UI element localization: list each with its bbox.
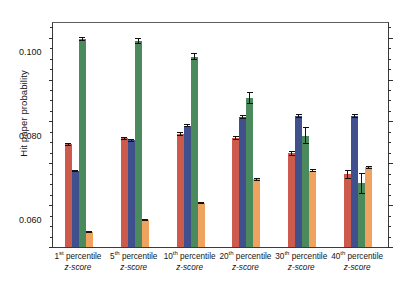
error-bar-series-2-group-1	[72, 170, 79, 173]
bar-series-2-group-6	[351, 116, 358, 247]
y-tick-minor	[388, 142, 391, 143]
x-category-line2: z-score	[162, 263, 218, 274]
error-bar-series-4-group-6	[365, 166, 372, 169]
x-category-line2: z-score	[106, 263, 162, 274]
error-bar-series-3-group-2	[135, 38, 142, 44]
bar-series-3-group-1	[79, 39, 86, 247]
y-tick-minor	[388, 132, 391, 133]
y-tick-label: 0.100	[19, 47, 42, 57]
bar-group	[232, 23, 260, 247]
plot-area: 0.0000.0200.0400.0600.0800.100	[52, 22, 389, 248]
y-tick-minor	[388, 100, 391, 101]
error-bar-series-2-group-5	[295, 114, 302, 118]
error-bar-series-2-group-3	[184, 124, 191, 127]
bar-group	[121, 23, 149, 247]
error-bar-series-1-group-1	[65, 143, 72, 146]
y-tick-label: 0.060	[19, 215, 42, 225]
bar-series-2-group-1	[72, 171, 79, 247]
error-bar-series-4-group-5	[309, 169, 316, 172]
error-bar-series-4-group-1	[86, 231, 93, 233]
error-bar-series-4-group-2	[142, 219, 149, 221]
y-tick-major	[388, 163, 393, 164]
x-category-line1: 10th percentile	[162, 252, 218, 263]
bar-series-4-group-4	[253, 179, 260, 247]
bar-series-2-group-4	[239, 117, 246, 247]
bar-series-3-group-5	[302, 136, 309, 247]
y-tick-minor	[388, 69, 391, 70]
x-category-label-1: 1st percentilez-score	[50, 252, 106, 273]
bar-series-1-group-3	[177, 134, 184, 247]
y-tick-minor	[388, 90, 391, 91]
x-category-line1: 40th percentile	[329, 252, 385, 263]
y-tick-minor	[388, 195, 391, 196]
y-tick-major	[388, 38, 393, 39]
error-bar-series-3-group-6	[358, 173, 365, 194]
error-bar-series-4-group-4	[253, 178, 260, 181]
bar-group	[65, 23, 93, 247]
error-bar-series-2-group-2	[128, 139, 135, 142]
bar-series-1-group-2	[121, 138, 128, 247]
bar-series-2-group-2	[128, 140, 135, 247]
x-category-label-3: 10th percentilez-score	[162, 252, 218, 273]
y-axis-title: Hit paper probability	[18, 44, 29, 184]
bar-series-1-group-5	[288, 153, 295, 247]
y-tick-minor	[388, 226, 391, 227]
bar-group	[344, 23, 372, 247]
figure: Hit paper probability 0.0000.0200.0400.0…	[0, 0, 402, 290]
error-bar-series-4-group-3	[198, 202, 205, 205]
y-tick-major	[388, 121, 393, 122]
y-tick-minor	[388, 237, 391, 238]
x-category-label-4: 20th percentilez-score	[217, 252, 273, 273]
error-bar-series-3-group-1	[79, 37, 86, 41]
y-tick-minor	[388, 216, 391, 217]
error-bar-series-1-group-3	[177, 132, 184, 136]
y-tick-minor	[388, 59, 391, 60]
bar-series-4-group-5	[309, 171, 316, 247]
error-bar-series-2-group-4	[239, 115, 246, 118]
bar-group	[288, 23, 316, 247]
bar-series-3-group-4	[246, 98, 253, 247]
y-tick-minor	[388, 184, 391, 185]
bar-series-4-group-6	[365, 167, 372, 247]
error-bar-series-1-group-2	[121, 137, 128, 140]
y-tick-major: 0.000	[49, 247, 54, 248]
x-category-line1: 5th percentile	[106, 252, 162, 263]
x-category-label-5: 30th percentilez-score	[273, 252, 329, 273]
bars-layer	[53, 23, 388, 247]
bar-series-4-group-1	[86, 232, 93, 247]
error-bar-series-1-group-4	[232, 136, 239, 140]
y-tick-label: 0.080	[19, 131, 42, 141]
x-category-line1: 1st percentile	[50, 252, 106, 263]
x-category-line1: 30th percentile	[273, 252, 329, 263]
error-bar-series-1-group-5	[288, 151, 295, 156]
y-tick-minor	[388, 111, 391, 112]
bar-series-1-group-4	[232, 138, 239, 247]
x-category-line2: z-score	[329, 263, 385, 274]
x-category-label-6: 40th percentilez-score	[329, 252, 385, 273]
x-category-label-2: 5th percentilez-score	[106, 252, 162, 273]
y-tick-major	[388, 205, 393, 206]
bar-series-3-group-2	[135, 41, 142, 247]
bar-group	[177, 23, 205, 247]
x-category-line2: z-score	[273, 263, 329, 274]
y-tick-minor	[388, 153, 391, 154]
bar-series-3-group-3	[191, 57, 198, 248]
x-category-line2: z-score	[50, 263, 106, 274]
x-category-line2: z-score	[217, 263, 273, 274]
bar-series-2-group-3	[184, 126, 191, 247]
error-bar-series-1-group-6	[344, 170, 351, 179]
error-bar-series-3-group-3	[191, 53, 198, 61]
bar-series-2-group-5	[295, 116, 302, 247]
y-tick-major	[388, 247, 393, 248]
bar-series-4-group-2	[142, 220, 149, 247]
y-tick-minor	[388, 27, 391, 28]
error-bar-series-3-group-4	[246, 92, 253, 105]
y-tick-minor	[388, 174, 391, 175]
error-bar-series-3-group-5	[302, 127, 309, 144]
y-tick-minor	[388, 48, 391, 49]
bar-series-1-group-6	[344, 174, 351, 247]
error-bar-series-2-group-6	[351, 114, 358, 118]
bar-series-4-group-3	[198, 203, 205, 247]
y-tick-major	[388, 80, 393, 81]
bar-series-1-group-1	[65, 144, 72, 247]
